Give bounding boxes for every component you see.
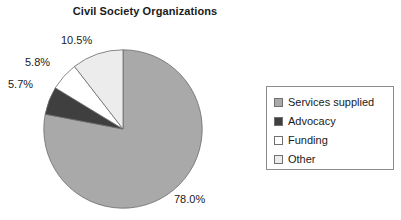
pie-slice-group [44, 50, 202, 208]
legend-label-funding: Funding [288, 135, 328, 146]
legend-item-advocacy[interactable]: Advocacy [274, 112, 393, 130]
pie-chart-figure: Civil Society Organizations 10.5% 5.8% 5… [0, 0, 401, 220]
legend-swatch-icon-advocacy [274, 117, 283, 126]
slice-label-funding: 5.8% [25, 56, 50, 68]
legend-label-other: Other [288, 154, 316, 165]
legend-swatch-icon-funding [274, 136, 283, 145]
legend-item-funding[interactable]: Funding [274, 131, 393, 149]
legend-swatch-icon-services-supplied [274, 98, 283, 107]
pie-svg [43, 49, 203, 209]
slice-label-other: 10.5% [61, 34, 92, 46]
legend-label-advocacy: Advocacy [288, 116, 336, 127]
legend-swatch-icon-other [274, 155, 283, 164]
slice-label-advocacy: 5.7% [8, 78, 33, 90]
page-title: Civil Society Organizations [0, 5, 290, 17]
legend-item-other[interactable]: Other [274, 150, 393, 168]
slice-label-services-supplied: 78.0% [174, 193, 205, 205]
chart-legend: Services supplied Advocacy Funding Other [266, 86, 394, 170]
legend-item-services-supplied[interactable]: Services supplied [274, 93, 393, 111]
pie-chart-plot-area [43, 49, 203, 209]
legend-label-services-supplied: Services supplied [288, 97, 374, 108]
